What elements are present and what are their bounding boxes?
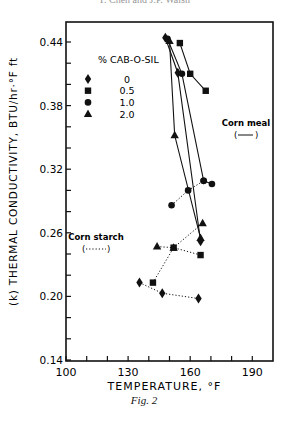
corn-meal-paren-close: ) (255, 130, 258, 140)
data-markers (136, 33, 215, 304)
diamond-marker (136, 278, 142, 288)
x-tick-label: 160 (180, 366, 201, 379)
series-line (157, 223, 203, 247)
legend-label: 1.0 (119, 97, 134, 108)
diamond-marker (195, 294, 201, 304)
legend-title: % CAB-O-SIL (98, 54, 159, 65)
triangle-marker (170, 131, 178, 139)
figure-caption: Fig. 2 (0, 394, 288, 406)
square-marker (203, 88, 209, 94)
legend: % CAB-O-SIL00.51.02.0 (84, 54, 160, 120)
circle-marker (185, 187, 192, 194)
x-tick-label: 190 (242, 366, 263, 379)
y-axis-label: (k) THERMAL CONDUCTIVITY, BTU/hr·°F ft (7, 57, 19, 306)
x-tick-label: 100 (56, 366, 77, 379)
triangle-marker (153, 242, 161, 250)
square-marker (150, 279, 156, 285)
series-line (153, 248, 201, 283)
legend-label: 2.0 (119, 109, 134, 120)
triangle-marker (198, 219, 206, 227)
triangle-marker (196, 234, 204, 242)
circle-marker (168, 202, 175, 209)
x-axis-label: TEMPERATURE, °F (107, 380, 222, 393)
corn-meal-label: Corn meal (222, 118, 271, 128)
corn-meal-paren-open: ( (234, 130, 237, 140)
circle-marker (179, 71, 186, 78)
legend-label: 0.5 (119, 85, 134, 96)
y-tick-label: 0.14 (40, 354, 64, 366)
square-marker (197, 252, 203, 258)
thermal-conductivity-chart: 1001301601900.140.200.260.320.380.44TEMP… (0, 0, 288, 422)
square-marker (187, 71, 193, 77)
annotations: Corn meal()Corn starch() (68, 118, 270, 254)
y-tick-label: 0.20 (40, 290, 63, 302)
x-tick-label: 130 (118, 366, 139, 379)
circle-marker (200, 178, 207, 185)
circle-marker (209, 181, 216, 188)
triangle-marker (84, 110, 92, 118)
series-lines (139, 38, 211, 299)
diamond-marker (85, 74, 91, 84)
corn-starch-label: Corn starch (68, 232, 123, 242)
diamond-marker (159, 288, 165, 298)
square-marker (85, 88, 91, 94)
corn-starch-paren-close: ) (107, 244, 110, 254)
square-marker (177, 40, 183, 46)
plot-frame (66, 22, 273, 361)
y-tick-label: 0.32 (40, 163, 63, 175)
legend-label: 0 (124, 74, 130, 85)
y-tick-label: 0.44 (40, 36, 64, 48)
series-line (139, 283, 198, 299)
circle-marker (85, 99, 92, 106)
corn-starch-paren-open: ( (82, 244, 85, 254)
y-tick-label: 0.26 (40, 227, 64, 239)
y-tick-label: 0.38 (40, 100, 63, 112)
axes: 1001301601900.140.200.260.320.380.44TEMP… (7, 22, 273, 393)
